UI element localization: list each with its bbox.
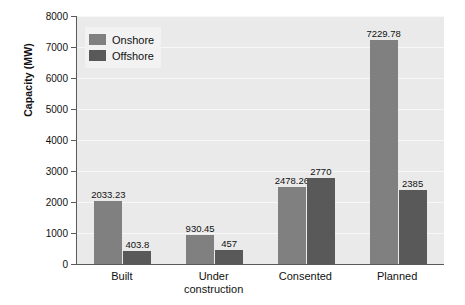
legend-label-onshore: Onshore [112,34,154,46]
bar-value-label: 2478.26 [275,175,309,186]
bar-value-label: 2033.23 [91,189,125,200]
bar-offshore-2[interactable] [307,178,335,264]
x-axis-label-2: Consented [279,270,332,283]
y-axis-tick-label: 6000 [24,73,68,84]
bar-value-label: 2385 [402,178,423,189]
y-axis-tick-label: 3000 [24,166,68,177]
bar-onshore-0[interactable] [94,201,122,264]
bar-chart-figure: Capacity (MW) 01000200030004000500060007… [0,0,465,305]
bar-onshore-1[interactable] [186,235,214,264]
bar-offshore-3[interactable] [399,190,427,264]
y-axis-tick-label: 7000 [24,42,68,53]
legend-item-onshore[interactable]: Onshore [89,32,154,47]
y-axis-tick-label: 0 [24,259,68,270]
x-axis-label-1: Under construction [184,270,243,295]
bar-offshore-0[interactable] [123,251,151,264]
y-axis-tick-label: 5000 [24,104,68,115]
x-axis-label-3: Planned [377,270,417,283]
bar-onshore-2[interactable] [278,187,306,264]
legend-item-offshore[interactable]: Offshore [89,48,154,63]
y-axis-tick-label: 1000 [24,228,68,239]
bar-offshore-1[interactable] [215,250,243,264]
y-axis-tick-label: 4000 [24,135,68,146]
bar-value-label: 457 [221,238,237,249]
x-axis-label-0: Built [111,270,132,283]
legend-swatch-offshore [89,50,106,61]
legend-label-offshore: Offshore [112,50,154,62]
bar-value-label: 7229.78 [366,28,400,39]
y-axis-tick-label: 2000 [24,197,68,208]
bar-value-label: 930.45 [186,223,215,234]
bar-onshore-3[interactable] [370,40,398,264]
bar-value-label: 2770 [310,166,331,177]
legend-swatch-onshore [89,34,106,45]
legend: Onshore Offshore [85,27,161,68]
bar-value-label: 403.8 [125,239,149,250]
y-axis-tick-label: 8000 [24,11,68,22]
